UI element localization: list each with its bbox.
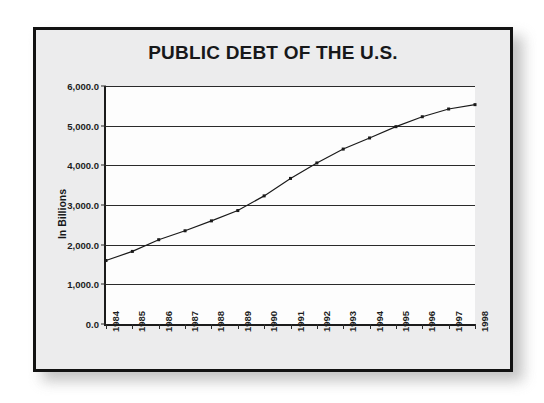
y-axis-tick-label: 4,000.0 xyxy=(67,160,99,171)
y-axis-tick-label: 5,000.0 xyxy=(67,120,99,131)
y-axis-tick-label: 1,000.0 xyxy=(67,279,99,290)
x-axis-tick-label: 1996 xyxy=(426,311,437,332)
x-axis-tick xyxy=(291,324,292,329)
x-axis-tick xyxy=(475,324,476,329)
x-axis-tick xyxy=(211,324,212,329)
y-axis-tick-label: 2,000.0 xyxy=(67,239,99,250)
x-axis-tick xyxy=(106,324,107,329)
x-axis-tick-label: 1990 xyxy=(268,311,279,332)
x-axis-tick xyxy=(132,324,133,329)
x-axis-tick-label: 1985 xyxy=(136,311,147,332)
x-axis-tick-label: 1987 xyxy=(189,311,200,332)
x-axis-tick xyxy=(238,324,239,329)
x-axis-tick-label: 1986 xyxy=(163,311,174,332)
x-axis-tick xyxy=(317,324,318,329)
x-axis-tick xyxy=(449,324,450,329)
x-axis-tick-label: 1988 xyxy=(215,311,226,332)
chart-panel: PUBLIC DEBT OF THE U.S. In Billions 0.01… xyxy=(33,27,513,372)
x-axis-tick xyxy=(264,324,265,329)
y-axis-tick-label: 3,000.0 xyxy=(67,200,99,211)
plot-area: 0.01,000.02,000.03,000.04,000.05,000.06,… xyxy=(104,86,475,326)
x-axis-tick-label: 1984 xyxy=(110,311,121,332)
y-axis-tick-label: 6,000.0 xyxy=(67,81,99,92)
chart-title: PUBLIC DEBT OF THE U.S. xyxy=(36,42,510,64)
x-axis-tick-label: 1993 xyxy=(347,311,358,332)
x-axis-tick xyxy=(370,324,371,329)
x-axis-tick xyxy=(185,324,186,329)
x-axis-tick xyxy=(343,324,344,329)
x-axis-tick xyxy=(422,324,423,329)
x-axis-tick-label: 1992 xyxy=(321,311,332,332)
x-axis-tick-label: 1994 xyxy=(374,311,385,332)
x-axis-ticks: 1984198519861987198819891990199119921993… xyxy=(106,86,475,324)
x-axis-tick-label: 1989 xyxy=(242,311,253,332)
y-axis-tick-label: 0.0 xyxy=(86,319,99,330)
x-axis-tick xyxy=(396,324,397,329)
y-axis-label: In Billions xyxy=(56,174,68,254)
x-axis-tick-label: 1995 xyxy=(400,311,411,332)
x-axis-tick-label: 1998 xyxy=(479,311,490,332)
x-axis-tick-label: 1991 xyxy=(295,311,306,332)
x-axis-tick xyxy=(159,324,160,329)
x-axis-tick-label: 1997 xyxy=(453,311,464,332)
